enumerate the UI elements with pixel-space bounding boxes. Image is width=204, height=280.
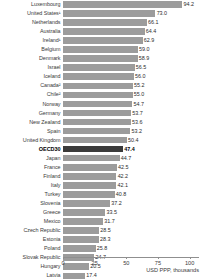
x-axis-label: USD PPP, thousands [0,267,199,273]
bar [63,83,133,90]
category-label: Finland [0,172,63,181]
bar-track: 94.2 [63,0,204,9]
x-axis-tick [158,257,159,260]
bar-row: Australia64.4 [0,27,204,36]
bar-row: Slovenia37.2 [0,199,204,208]
bar-track: 58.9 [63,54,204,63]
bar-track: 66.1 [63,18,204,27]
bar [63,92,133,99]
bar [63,1,182,8]
bar [63,64,135,71]
bar [63,73,134,80]
bar-track: 56.5 [63,63,204,72]
category-label: Spain [0,127,63,136]
category-label: New Zealand [0,118,63,127]
bar [63,110,131,117]
bar [63,28,145,35]
category-label: Israel [0,63,63,72]
bar-value-label: 40.8 [115,190,127,199]
bar [63,173,116,180]
bar-value-label: 55.0 [133,90,145,99]
bar-value-label: 62.9 [143,36,155,45]
category-label: Canada² [0,81,63,90]
bar-row: Norway54.7 [0,100,204,109]
category-label: Greece [0,208,63,217]
bar-track: 40.8 [63,190,204,199]
bar-value-label: 17.4 [85,271,97,280]
bar-value-label: 44.7 [120,154,132,163]
category-label: Luxembourg [0,0,63,9]
bar [63,164,117,171]
bar-value-label: 53.7 [131,109,143,118]
category-label: Netherlands [0,18,63,27]
bar-row: Germany53.7 [0,109,204,118]
bar-value-label: 50.4 [127,136,139,145]
bar-track: 42.5 [63,163,204,172]
bar [63,19,147,26]
bar-value-label: 28.5 [99,226,111,235]
category-label: Italy [0,181,63,190]
bar-row: United States¹73.0 [0,9,204,18]
bar-track: 64.4 [63,27,204,36]
bar-track: 24.7 [63,253,204,262]
bar-track: 53.6 [63,118,204,127]
category-label: Belgium [0,45,63,54]
category-label: United States¹ [0,9,63,18]
bar-value-label: 73.0 [155,9,167,18]
bar-row: Chile²55.0 [0,90,204,99]
category-label: France [0,163,63,172]
bar [63,218,103,225]
bar [63,37,143,44]
bar-value-label: 56.5 [135,63,147,72]
bar-row: Mexico31.7 [0,217,204,226]
bar [63,10,155,17]
bar-row: Netherlands66.1 [0,18,204,27]
bar [63,55,138,62]
bar-track: 28.5 [63,226,204,235]
bar-track: 54.7 [63,100,204,109]
bar-row: Finland42.2 [0,172,204,181]
bar-value-label: 33.5 [105,208,117,217]
bar-row-highlighted: OECD3047.4 [0,145,204,154]
x-axis-tick [190,257,191,260]
bar-track: 73.0 [63,9,204,18]
bar [63,137,127,144]
bar-row: Latvia17.4 [0,271,204,280]
bar [63,245,96,252]
bar [63,182,116,189]
bar-value-label: 53.2 [130,127,142,136]
category-label: Mexico [0,217,63,226]
bar-row: France42.5 [0,163,204,172]
x-axis-tick [63,257,64,260]
category-label: Poland [0,244,63,253]
bar-value-label: 54.7 [132,100,144,109]
bar-value-label: 55.2 [133,81,145,90]
bar-value-label: 47.4 [123,145,135,154]
bar-row: Poland25.8 [0,244,204,253]
category-label: Czech Republic [0,226,63,235]
bar [63,128,130,135]
bar-value-label: 56.0 [134,72,146,81]
bar-value-label: 25.8 [96,244,108,253]
bar-track: 55.0 [63,90,204,99]
bar-track: 55.2 [63,81,204,90]
bar-value-label: 37.2 [110,199,122,208]
bar [63,227,99,234]
bar [63,155,120,162]
bar-row: Spain53.2 [0,127,204,136]
bar-row: Greece33.5 [0,208,204,217]
bar-value-label: 66.1 [147,18,159,27]
bar-value-label: 94.2 [182,0,194,9]
bar-row: Denmark58.9 [0,54,204,63]
bar-value-label: 42.5 [117,163,129,172]
bar-row: Canada²55.2 [0,81,204,90]
bar-value-label: 42.2 [116,172,128,181]
x-axis-tick [126,257,127,260]
category-label: Chile² [0,90,63,99]
bar-track: 37.2 [63,199,204,208]
category-label: Japan [0,154,63,163]
bar-track: 17.4 [63,271,204,280]
bar-value-label: 53.6 [131,118,143,127]
bar [63,101,132,108]
